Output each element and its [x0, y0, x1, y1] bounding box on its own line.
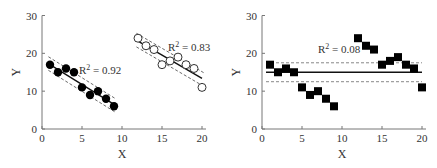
data-point [166, 57, 174, 65]
data-point [94, 87, 102, 95]
data-point [322, 95, 330, 103]
data-point [158, 61, 166, 69]
y-tick-label: 20 [246, 47, 258, 59]
data-point [70, 68, 78, 76]
data-point [142, 42, 150, 50]
y-tick-label: 0 [32, 123, 38, 135]
r-squared-label: R2 = 0.83 [168, 40, 211, 53]
y-axis-label: Y [229, 68, 243, 77]
data-point [290, 68, 298, 76]
y-tick-label: 30 [26, 10, 38, 22]
x-tick-label: 5 [79, 132, 85, 144]
y-tick-label: 10 [26, 85, 38, 97]
data-point [102, 95, 110, 103]
x-tick-label: 5 [299, 132, 305, 144]
data-point [378, 61, 386, 69]
data-point [330, 102, 338, 110]
data-point [274, 68, 282, 76]
data-point [370, 46, 378, 54]
y-tick-label: 0 [252, 123, 258, 135]
data-point [418, 83, 426, 91]
data-point [410, 64, 418, 72]
x-tick-label: 10 [337, 132, 349, 144]
r-squared-label: R2 = 0.92 [79, 63, 121, 76]
x-axis-label: X [338, 147, 347, 161]
data-point [266, 61, 274, 69]
x-tick-label: 0 [39, 132, 45, 144]
x-tick-label: 10 [117, 132, 129, 144]
data-point [174, 53, 182, 61]
x-tick-label: 20 [197, 132, 209, 144]
data-point [190, 64, 198, 72]
y-tick-label: 10 [246, 85, 258, 97]
data-point [402, 61, 410, 69]
figure: 010203005101520XYR2 = 0.92R2 = 0.83 0102… [0, 0, 437, 168]
data-point [282, 64, 290, 72]
x-tick-label: 15 [377, 132, 389, 144]
y-tick-label: 30 [246, 10, 258, 22]
data-point [46, 60, 54, 68]
left-plot: 010203005101520XYR2 = 0.92R2 = 0.83 [9, 10, 211, 162]
data-point [314, 87, 322, 95]
right-plot: 010203005101520XYR2 = 0.08 [229, 10, 428, 162]
data-point [198, 83, 206, 91]
data-point [134, 34, 142, 42]
data-point [86, 91, 94, 99]
data-point [62, 64, 70, 72]
y-axis-label: Y [9, 68, 23, 77]
data-point [298, 83, 306, 91]
data-point [150, 46, 158, 54]
data-point [386, 57, 394, 65]
r-squared-label: R2 = 0.08 [318, 42, 361, 55]
x-tick-label: 15 [157, 132, 169, 144]
x-tick-label: 0 [259, 132, 265, 144]
data-point [362, 42, 370, 50]
data-point [306, 91, 314, 99]
data-point [110, 102, 118, 110]
data-point [182, 61, 190, 69]
data-point [54, 68, 62, 76]
data-point [78, 83, 86, 91]
x-tick-label: 20 [417, 132, 429, 144]
data-point [394, 53, 402, 61]
x-axis-label: X [118, 147, 127, 161]
y-tick-label: 20 [26, 47, 38, 59]
data-point [354, 34, 362, 42]
